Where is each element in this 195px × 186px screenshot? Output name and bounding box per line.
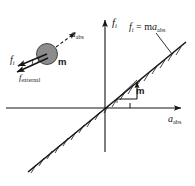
mass-body-label: m	[58, 57, 66, 67]
equation-relation: =	[136, 21, 142, 32]
external-force-vector-label: fexternal	[19, 73, 40, 83]
external-force-label-subscript: external	[22, 77, 41, 83]
equation-mass-symbol: m	[144, 21, 152, 32]
equation-lhs-subscript: i	[132, 26, 134, 33]
acceleration-vector-label: aabs	[71, 30, 84, 41]
y-axis-label-subscript: i	[115, 22, 117, 29]
x-axis-label-subscript: abs	[173, 118, 182, 125]
equation-leader-line	[156, 33, 172, 54]
inertial-force-vector-label: fi	[10, 55, 15, 66]
y-axis-label: fi	[112, 17, 117, 30]
equation-accel-subscript: abs	[157, 26, 166, 33]
physics-diagram-figure: fi aabs fi = maabs m m aabs fi fexternal	[0, 0, 195, 186]
inertial-force-label-subscript: i	[13, 59, 15, 66]
x-axis-label: aabs	[168, 114, 182, 125]
line-equation-label: fi = maabs	[129, 22, 166, 33]
slope-triangle-rise-label: m	[136, 86, 144, 96]
acceleration-label-subscript: abs	[76, 34, 84, 40]
